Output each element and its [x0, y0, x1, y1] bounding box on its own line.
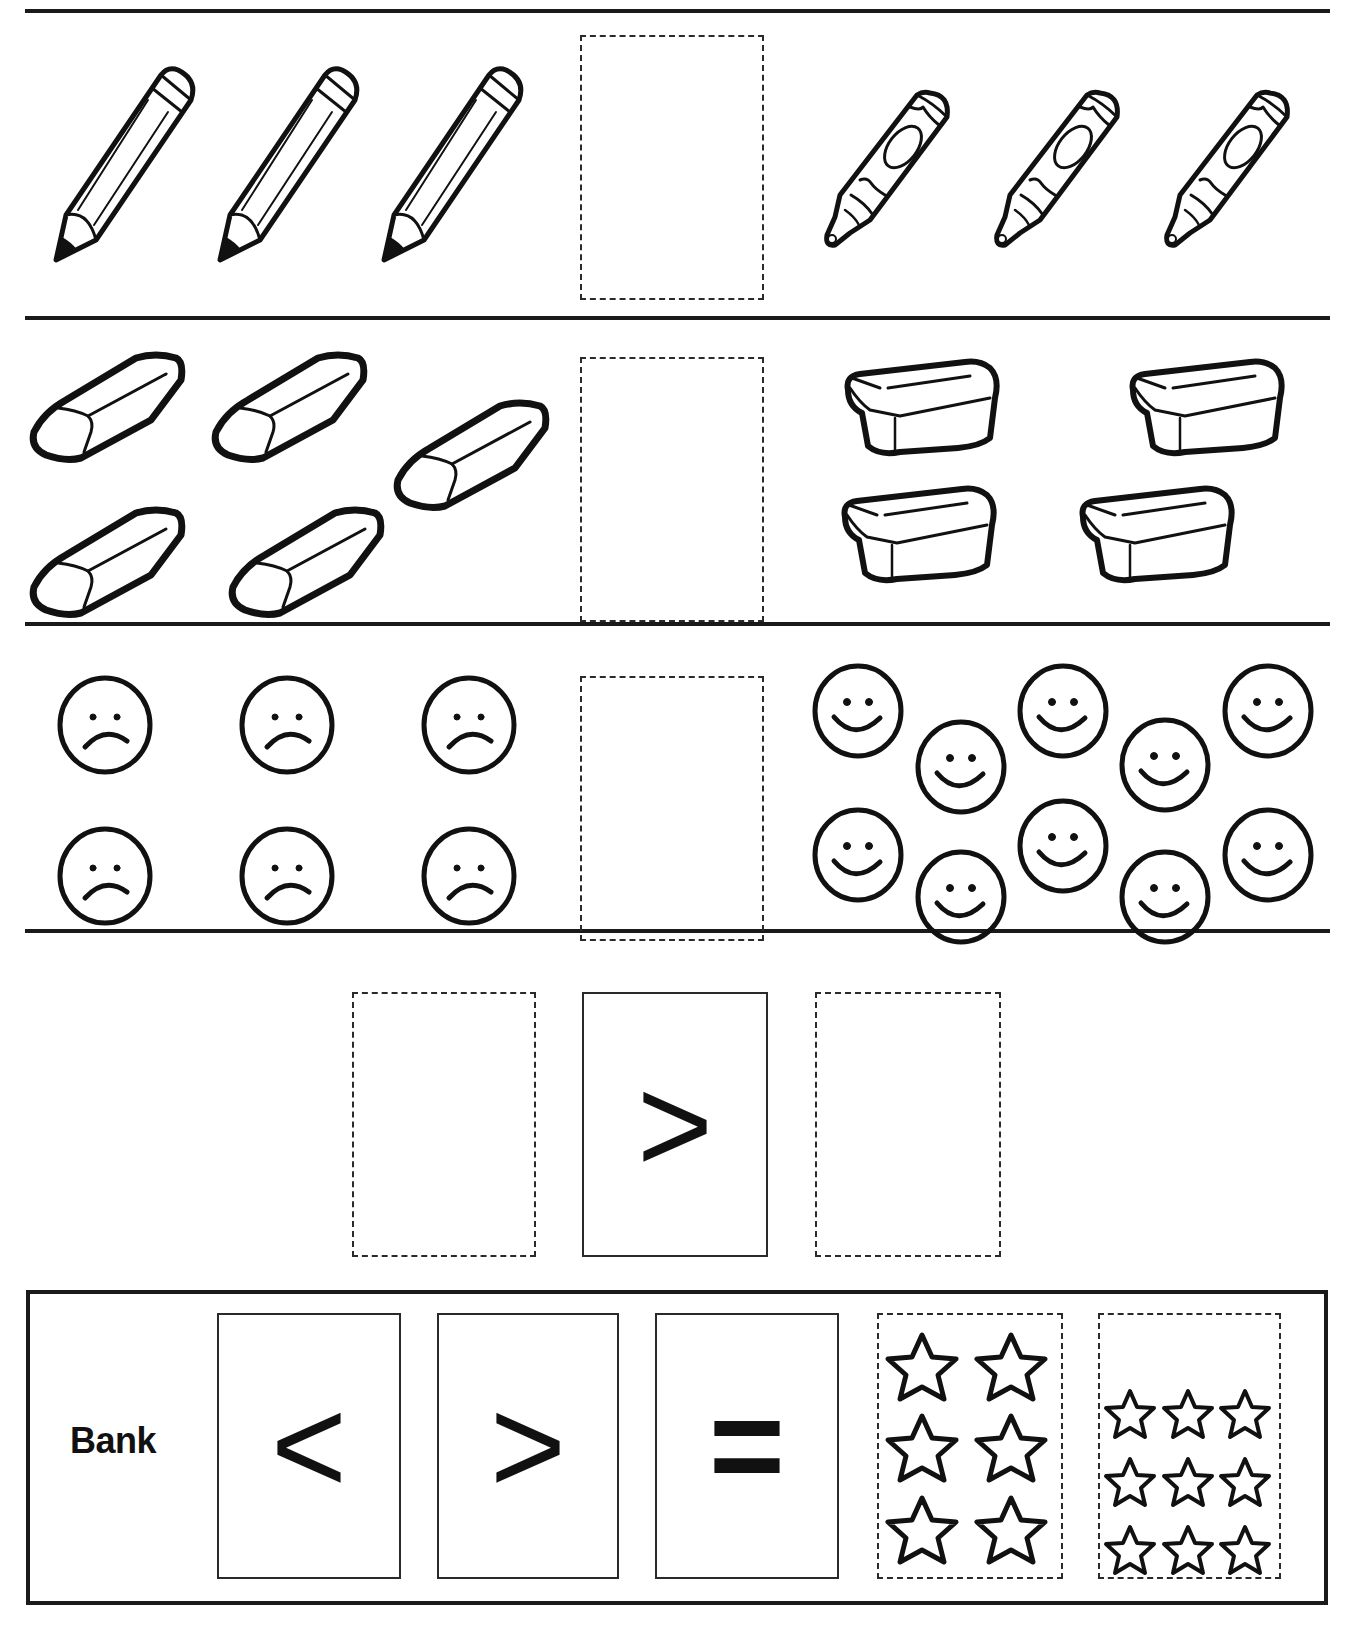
crayon-icon — [1155, 85, 1305, 255]
happy-face-icon — [1015, 662, 1111, 760]
star-icon — [977, 1335, 1045, 1399]
sad-face-icon — [419, 826, 519, 926]
eraser-icon — [225, 505, 385, 620]
star-icon — [1221, 1391, 1269, 1437]
bank-label: Bank — [70, 1420, 156, 1462]
star-icon — [888, 1498, 956, 1562]
star-icon — [1106, 1459, 1154, 1505]
crayon-icon — [985, 85, 1135, 255]
stars-group-icon — [1100, 1315, 1279, 1577]
star-icon — [977, 1498, 1045, 1562]
greater-than-symbol: > — [637, 1056, 713, 1193]
row-2-answer-slot[interactable] — [580, 357, 764, 622]
crayon-icon — [815, 85, 965, 255]
bank-card-equals[interactable]: = — [655, 1313, 839, 1579]
sponge-eraser-icon — [840, 358, 1015, 458]
star-icon — [1221, 1527, 1269, 1573]
star-icon — [1164, 1527, 1212, 1573]
stars-group-icon — [879, 1315, 1061, 1577]
sponge-eraser-icon — [837, 485, 1012, 585]
sad-face-icon — [55, 826, 155, 926]
bank-card-less-than[interactable]: < — [217, 1313, 401, 1579]
sad-face-icon — [55, 675, 155, 775]
happy-face-icon — [1220, 662, 1316, 760]
bank-card-greater-than[interactable]: > — [437, 1313, 619, 1579]
less-than-symbol: < — [271, 1378, 347, 1515]
eraser-icon — [208, 350, 368, 465]
divider-line — [25, 622, 1330, 626]
star-icon — [1164, 1391, 1212, 1437]
happy-face-icon — [810, 662, 906, 760]
bank-card-six-stars[interactable] — [877, 1313, 1063, 1579]
pencil-icon — [356, 60, 531, 270]
star-icon — [1106, 1527, 1154, 1573]
row-4-right-slot[interactable] — [815, 992, 1001, 1257]
sad-face-icon — [419, 675, 519, 775]
sponge-eraser-icon — [1075, 485, 1250, 585]
happy-face-icon — [1015, 797, 1111, 895]
row-3-answer-slot[interactable] — [580, 676, 764, 941]
star-icon — [888, 1416, 956, 1480]
divider-line — [25, 9, 1330, 13]
greater-than-symbol: > — [490, 1378, 566, 1515]
pencil-icon — [28, 60, 203, 270]
happy-face-icon — [1220, 806, 1316, 904]
star-icon — [1221, 1459, 1269, 1505]
divider-line — [25, 316, 1330, 320]
row-4-left-slot[interactable] — [352, 992, 536, 1257]
happy-face-icon — [810, 806, 906, 904]
star-icon — [1106, 1391, 1154, 1437]
pencil-icon — [192, 60, 367, 270]
star-icon — [888, 1335, 956, 1399]
happy-face-icon — [913, 848, 1009, 946]
equals-symbol: = — [709, 1378, 785, 1515]
star-icon — [1164, 1459, 1212, 1505]
happy-face-icon — [1117, 848, 1213, 946]
row-4-symbol-card: > — [582, 992, 768, 1257]
sad-face-icon — [237, 675, 337, 775]
happy-face-icon — [1117, 716, 1213, 814]
happy-face-icon — [913, 718, 1009, 816]
star-icon — [977, 1416, 1045, 1480]
bank-card-nine-stars[interactable] — [1098, 1313, 1281, 1579]
eraser-icon — [26, 350, 186, 465]
sad-face-icon — [237, 826, 337, 926]
eraser-icon — [390, 398, 550, 513]
row-1-answer-slot[interactable] — [580, 35, 764, 300]
sponge-eraser-icon — [1125, 358, 1300, 458]
eraser-icon — [26, 505, 186, 620]
